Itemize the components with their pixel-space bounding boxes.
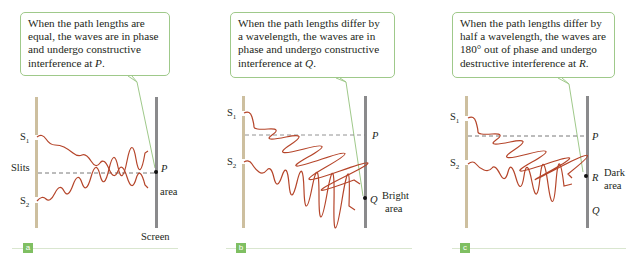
label-s1: S1 — [227, 107, 236, 123]
panel-rule-b — [226, 248, 412, 249]
label-s2: S2 — [450, 157, 459, 173]
panel-b: When the path lengths differ by a wavele… — [212, 0, 424, 265]
label-point-r: R — [592, 172, 598, 183]
label-s1: S1 — [20, 131, 29, 147]
panel-rule-c — [452, 248, 626, 249]
label-screen: Screen — [141, 231, 170, 242]
panel-badge-b: b — [236, 243, 246, 253]
panel-a: When the path lengths are equal, the wav… — [0, 0, 212, 265]
label-point-q: Q — [370, 194, 378, 205]
diagram-b — [212, 0, 424, 265]
label-bright: Bright — [382, 190, 409, 201]
diagram-a — [0, 0, 212, 265]
label-s2: S2 — [227, 156, 236, 172]
label-s2: S2 — [20, 195, 29, 211]
label-s1: S1 — [450, 111, 459, 127]
label-point-p: P — [161, 163, 167, 174]
panel-badge-a: a — [23, 243, 33, 253]
label-area: area — [604, 180, 621, 191]
panel-badge-c: c — [460, 243, 470, 253]
screen — [155, 97, 158, 228]
label-point-p: P — [592, 131, 598, 142]
diagram-c — [424, 0, 637, 265]
label-dark: Dark — [604, 167, 625, 178]
panel-c: When the path lengths differ by half a w… — [424, 0, 637, 265]
label-slits: Slits — [11, 162, 30, 173]
panel-rule-a — [12, 248, 178, 249]
label-point-p: P — [372, 130, 378, 141]
label-area: area — [385, 203, 402, 214]
label-area: area — [160, 186, 177, 197]
label-point-q: Q — [592, 205, 600, 216]
slit-barrier — [35, 97, 38, 135]
